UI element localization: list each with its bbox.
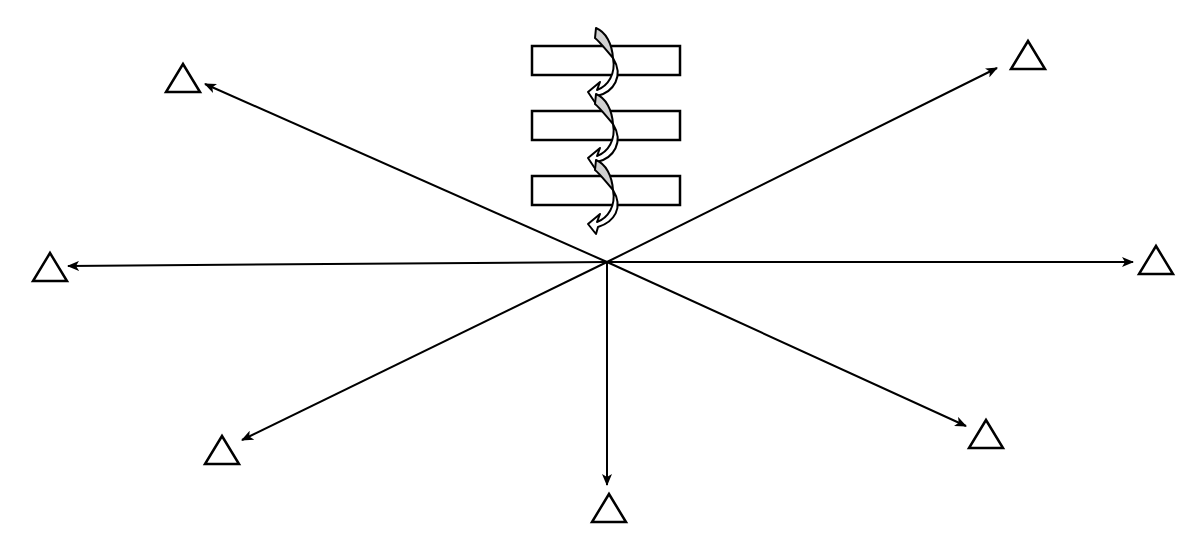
arrow-lower-left xyxy=(242,262,607,440)
triangle-icon-lower-right xyxy=(969,420,1003,448)
triangle-icon-left xyxy=(33,253,67,281)
radial-arrow-diagram xyxy=(0,0,1188,540)
arrow-lower-right xyxy=(607,262,966,426)
triangle-icon-right xyxy=(1139,246,1173,274)
arrow-upper-right xyxy=(607,68,997,262)
triangle-icon-down xyxy=(592,494,626,522)
arrow-left xyxy=(68,262,607,266)
triangle-icon-lower-left xyxy=(205,436,239,464)
triangle-icon-upper-left xyxy=(166,64,200,92)
triangle-icon-upper-right xyxy=(1011,41,1045,69)
